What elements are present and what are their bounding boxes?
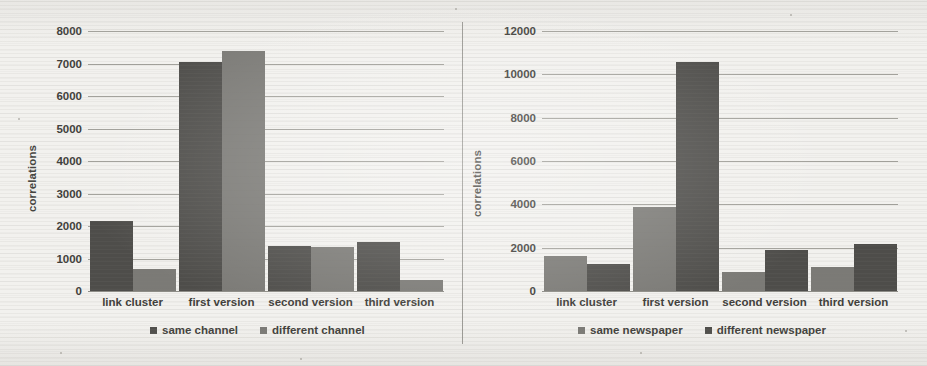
bar bbox=[544, 256, 587, 291]
panel-divider bbox=[462, 22, 463, 344]
x-axis-label: first version bbox=[643, 296, 709, 308]
bar bbox=[133, 269, 176, 291]
bar bbox=[676, 62, 719, 291]
legend-swatch-icon bbox=[260, 327, 267, 334]
legend-label: different channel bbox=[272, 324, 365, 336]
legend-item: different channel bbox=[260, 324, 365, 336]
legend-swatch-icon bbox=[150, 327, 157, 334]
bar bbox=[811, 267, 854, 291]
legend-left: same channeldifferent channel bbox=[150, 324, 365, 336]
bar bbox=[765, 250, 808, 291]
y-axis-tick-label: 2000 bbox=[510, 242, 536, 254]
legend-swatch-icon bbox=[705, 327, 712, 334]
x-axis-label: second version bbox=[722, 296, 806, 308]
y-axis-tick-label: 10000 bbox=[504, 68, 536, 80]
chart-panel-left: correlations 010002000300040005000600070… bbox=[0, 0, 462, 366]
y-axis-tick-label: 8000 bbox=[510, 112, 536, 124]
y-axis-tick-label: 5000 bbox=[56, 123, 82, 135]
y-axis-tick-label: 7000 bbox=[56, 58, 82, 70]
bar-group-left bbox=[88, 31, 444, 291]
y-axis-tick-label: 6000 bbox=[510, 155, 536, 167]
chart-panel-right: correlations 020004000600080001000012000… bbox=[462, 0, 927, 366]
bar bbox=[311, 247, 354, 291]
gridline bbox=[88, 291, 444, 292]
x-axis-label: link cluster bbox=[102, 296, 163, 308]
legend-item: different newspaper bbox=[705, 324, 826, 336]
y-axis-tick-label: 3000 bbox=[56, 188, 82, 200]
bar bbox=[854, 244, 897, 291]
x-axis-label: third version bbox=[365, 296, 435, 308]
legend-label: same channel bbox=[162, 324, 238, 336]
y-axis-tick-label: 1000 bbox=[56, 253, 82, 265]
bar bbox=[587, 264, 630, 291]
x-axis-label: third version bbox=[819, 296, 889, 308]
legend-item: same newspaper bbox=[578, 324, 683, 336]
legend-label: same newspaper bbox=[590, 324, 683, 336]
y-axis-ticks-right: 020004000600080001000012000 bbox=[480, 31, 536, 291]
y-axis-tick-label: 8000 bbox=[56, 25, 82, 37]
x-axis-label: second version bbox=[268, 296, 352, 308]
bar bbox=[222, 51, 265, 292]
bar bbox=[357, 242, 400, 291]
y-axis-tick-label: 0 bbox=[76, 285, 82, 297]
legend-swatch-icon bbox=[578, 327, 585, 334]
legend-item: same channel bbox=[150, 324, 238, 336]
y-axis-tick-label: 6000 bbox=[56, 90, 82, 102]
bar-group-right bbox=[542, 31, 898, 291]
y-axis-tick-label: 4000 bbox=[510, 198, 536, 210]
bar bbox=[400, 280, 443, 291]
bar bbox=[268, 246, 311, 292]
y-axis-tick-label: 0 bbox=[530, 285, 536, 297]
bar bbox=[179, 62, 222, 291]
legend-label: different newspaper bbox=[717, 324, 826, 336]
bar bbox=[722, 272, 765, 292]
plot-area-left bbox=[88, 31, 444, 291]
bar bbox=[90, 221, 133, 291]
legend-right: same newspaperdifferent newspaper bbox=[578, 324, 826, 336]
plot-area-right bbox=[542, 31, 898, 291]
y-axis-tick-label: 4000 bbox=[56, 155, 82, 167]
y-axis-tick-label: 12000 bbox=[504, 25, 536, 37]
y-axis-tick-label: 2000 bbox=[56, 220, 82, 232]
y-axis-ticks-left: 010002000300040005000600070008000 bbox=[34, 31, 82, 291]
bar bbox=[633, 207, 676, 292]
gridline bbox=[542, 291, 898, 292]
x-axis-label: link cluster bbox=[556, 296, 617, 308]
figure-container: correlations 010002000300040005000600070… bbox=[0, 0, 927, 366]
x-axis-label: first version bbox=[189, 296, 255, 308]
